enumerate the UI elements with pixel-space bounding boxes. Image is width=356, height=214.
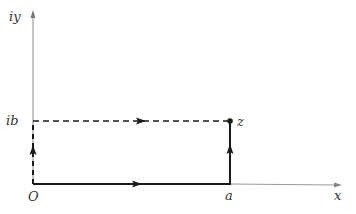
ib-label: ib — [6, 113, 18, 128]
y-axis — [31, 10, 36, 184]
z-label: z — [236, 114, 244, 129]
origin-label: O — [28, 189, 39, 204]
path-ib-to-z — [33, 118, 230, 125]
path-a-to-z — [227, 121, 234, 184]
x-axis-label: x — [334, 188, 342, 203]
point-z — [227, 118, 233, 124]
y-axis-arrow-icon — [31, 10, 36, 18]
x-axis-arrow-icon — [334, 183, 342, 188]
path-O-to-a — [33, 181, 231, 188]
contour-diagram: iy x ib O a z — [0, 0, 356, 214]
a-label: a — [225, 188, 233, 203]
y-axis-label: iy — [9, 9, 21, 24]
x-axis — [230, 183, 342, 188]
